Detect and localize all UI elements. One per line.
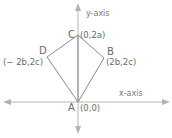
vertex-label-b: B [107,47,114,57]
vertex-label-a: A [68,103,75,113]
kite-shape [47,35,104,102]
vertex-coord-a: (0,0) [80,104,100,113]
vertex-label-d: D [39,46,47,56]
vertex-coord-c: (0,2a) [80,31,105,40]
figure-canvas [0,0,172,138]
geometry-figure: y-axis x-axis C (0,2a) B (2b,2c) D (− 2b… [0,0,172,138]
y-axis-label: y-axis [86,10,110,18]
vertex-coord-b: (2b,2c) [106,58,136,67]
vertex-label-c: C [68,30,75,40]
x-axis-label: x-axis [119,90,143,98]
vertex-coord-d: (− 2b,2c) [3,58,43,67]
